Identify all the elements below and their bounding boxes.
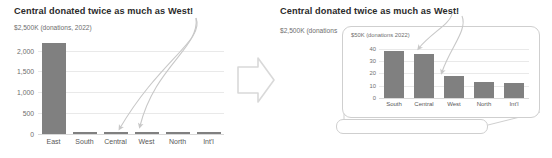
magnifier-selection-box bbox=[336, 119, 488, 134]
bar-cell bbox=[38, 38, 69, 134]
y-axis-tick: 40 bbox=[370, 46, 376, 52]
x-axis-tick: Central bbox=[100, 138, 131, 145]
x-axis-tick: West bbox=[439, 101, 469, 107]
x-axis-tick: East bbox=[38, 138, 69, 145]
screenshot-stage: Central donated twice as much as West! $… bbox=[0, 0, 552, 158]
inset-x-axis-labels: SouthCentralWestNorthInt'l bbox=[379, 98, 529, 107]
left-y-axis-label: $2,500K (donations, 2022) bbox=[14, 24, 92, 31]
x-axis-tick: North bbox=[162, 138, 193, 145]
y-axis-tick: 1,500 bbox=[17, 68, 34, 75]
bar bbox=[474, 82, 494, 98]
bar bbox=[444, 76, 464, 98]
bar-cell bbox=[69, 38, 100, 134]
y-axis-tick: 20 bbox=[370, 70, 376, 76]
left-chart-panel: Central donated twice as much as West! $… bbox=[0, 0, 232, 158]
bar-cell bbox=[379, 44, 409, 98]
y-axis-tick: 500 bbox=[23, 110, 34, 117]
right-chart-title: Central donated twice as much as West! bbox=[280, 6, 459, 16]
bar-cell bbox=[409, 44, 439, 98]
bar-cell bbox=[131, 38, 162, 134]
bar-cell bbox=[162, 38, 193, 134]
x-axis-tick: West bbox=[131, 138, 162, 145]
bar bbox=[504, 83, 524, 98]
y-axis-tick: 0 bbox=[30, 131, 34, 138]
bar-cell bbox=[193, 38, 224, 134]
y-axis-tick: 10 bbox=[370, 83, 376, 89]
left-bar-series bbox=[38, 38, 224, 134]
inset-y-axis-label: $50K (donations 2022) bbox=[351, 32, 410, 38]
x-axis-tick: North bbox=[469, 101, 499, 107]
zoom-callout-panel: $50K (donations 2022) 010203040 SouthCen… bbox=[342, 26, 540, 118]
x-axis-tick: South bbox=[379, 101, 409, 107]
x-axis-tick: Central bbox=[409, 101, 439, 107]
y-axis-tick: 30 bbox=[370, 58, 376, 64]
bar-cell bbox=[469, 44, 499, 98]
bar-cell bbox=[439, 44, 469, 98]
right-y-axis-label: $2,500K (donations bbox=[280, 27, 337, 34]
bar-cell bbox=[499, 44, 529, 98]
bar bbox=[384, 51, 404, 98]
right-arrow-icon bbox=[232, 54, 278, 106]
y-axis-tick: 0 bbox=[373, 95, 376, 101]
inset-bar-series bbox=[379, 44, 529, 98]
bar bbox=[42, 43, 66, 134]
left-chart-title: Central donated twice as much as West! bbox=[14, 6, 193, 16]
bar-cell bbox=[100, 38, 131, 134]
left-x-axis-labels: EastSouthCentralWestNorthInt'l bbox=[38, 134, 224, 145]
y-axis-tick: 1,000 bbox=[17, 89, 34, 96]
inset-plot-area: 010203040 SouthCentralWestNorthInt'l bbox=[379, 44, 529, 98]
y-axis-tick: 2,000 bbox=[17, 47, 34, 54]
x-axis-tick: South bbox=[69, 138, 100, 145]
x-axis-tick: Int'l bbox=[193, 138, 224, 145]
x-axis-tick: Int'l bbox=[499, 101, 529, 107]
left-plot-area: 05001,0001,5002,000 EastSouthCentralWest… bbox=[38, 38, 224, 134]
bar bbox=[414, 54, 434, 98]
